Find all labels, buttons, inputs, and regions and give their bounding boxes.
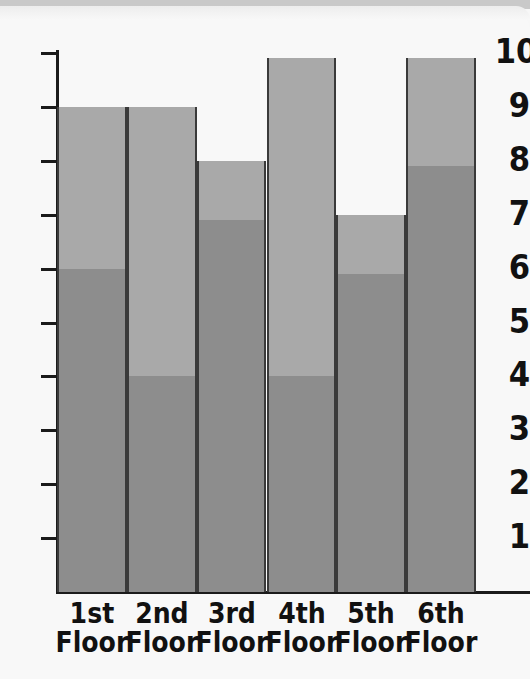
y-tick-label-7: 7 bbox=[495, 197, 530, 230]
bar-2 bbox=[127, 107, 197, 592]
x-label-5: 5thFloor bbox=[334, 600, 408, 657]
y-tick-6 bbox=[41, 268, 57, 271]
x-label-2-noun: Floor bbox=[125, 629, 199, 658]
y-tick-7 bbox=[41, 214, 57, 217]
bar-6-upper-segment bbox=[408, 58, 474, 166]
bar-1-lower-segment bbox=[59, 269, 125, 592]
bar-2-lower-segment bbox=[129, 376, 195, 592]
y-tick-label-8: 8 bbox=[495, 143, 530, 176]
bar-5-lower-segment bbox=[338, 274, 404, 592]
x-label-1-ordinal: 1st bbox=[55, 600, 129, 629]
bar-1 bbox=[57, 107, 127, 592]
x-label-4-noun: Floor bbox=[265, 629, 339, 658]
x-label-3: 3rdFloor bbox=[195, 600, 269, 657]
y-tick-10 bbox=[41, 52, 57, 55]
y-tick-label-2: 2 bbox=[495, 466, 530, 499]
x-label-2-ordinal: 2nd bbox=[125, 600, 199, 629]
x-label-1-noun: Floor bbox=[55, 629, 129, 658]
bar-5 bbox=[336, 215, 406, 592]
y-tick-label-3: 3 bbox=[495, 412, 530, 445]
y-tick-label-1: 1 bbox=[495, 520, 530, 553]
bar-4-lower-segment bbox=[269, 376, 335, 592]
x-label-5-ordinal: 5th bbox=[334, 600, 408, 629]
y-tick-label-4: 4 bbox=[495, 358, 530, 391]
bar-4 bbox=[267, 58, 337, 592]
x-label-2: 2ndFloor bbox=[125, 600, 199, 657]
x-label-5-noun: Floor bbox=[334, 629, 408, 658]
y-tick-1 bbox=[41, 537, 57, 540]
y-tick-label-6: 6 bbox=[495, 251, 530, 284]
bar-6 bbox=[406, 58, 476, 592]
x-label-4: 4thFloor bbox=[265, 600, 339, 657]
bar-6-lower-segment bbox=[408, 166, 474, 592]
bar-3 bbox=[197, 161, 267, 592]
x-label-6: 6thFloor bbox=[404, 600, 478, 657]
bar-3-upper-segment bbox=[199, 161, 265, 220]
y-tick-5 bbox=[41, 322, 57, 325]
y-tick-9 bbox=[41, 106, 57, 109]
y-tick-label-5: 5 bbox=[495, 305, 530, 338]
bar-chart: 12345678910 1stFloor2ndFloor3rdFloor4thF… bbox=[0, 0, 530, 679]
bar-2-upper-segment bbox=[129, 107, 195, 377]
y-tick-4 bbox=[41, 375, 57, 378]
y-tick-3 bbox=[41, 429, 57, 432]
bar-4-upper-segment bbox=[269, 58, 335, 376]
bar-3-lower-segment bbox=[199, 220, 265, 592]
y-tick-label-10: 10 bbox=[495, 35, 530, 68]
chart-page: 12345678910 1stFloor2ndFloor3rdFloor4thF… bbox=[0, 0, 530, 679]
x-label-4-ordinal: 4th bbox=[265, 600, 339, 629]
bar-5-upper-segment bbox=[338, 215, 404, 274]
y-tick-2 bbox=[41, 483, 57, 486]
x-label-6-noun: Floor bbox=[404, 629, 478, 658]
x-label-6-ordinal: 6th bbox=[404, 600, 478, 629]
x-label-3-ordinal: 3rd bbox=[195, 600, 269, 629]
x-label-3-noun: Floor bbox=[195, 629, 269, 658]
y-tick-8 bbox=[41, 160, 57, 163]
y-tick-label-9: 9 bbox=[495, 89, 530, 122]
x-label-1: 1stFloor bbox=[55, 600, 129, 657]
bar-1-upper-segment bbox=[59, 107, 125, 269]
